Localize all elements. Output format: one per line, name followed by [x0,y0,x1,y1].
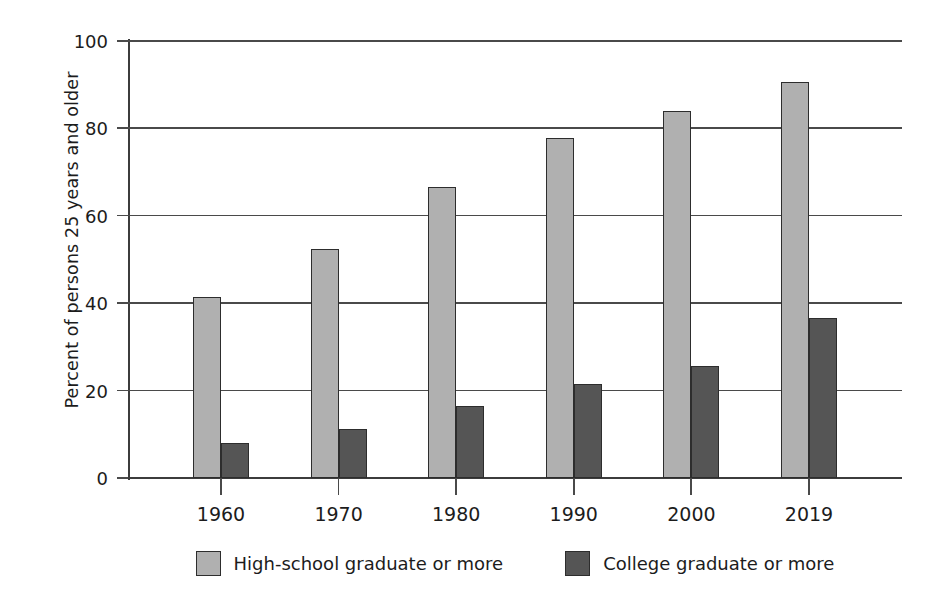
x-tick-1980 [455,478,457,495]
bar-1980-series-1 [428,187,456,478]
y-tick-label-100: 100 [48,31,108,52]
x-tick-label-2019: 2019 [749,503,869,525]
x-tick-1970 [338,478,340,495]
x-tick-1990 [573,478,575,495]
legend-item-2[interactable]: College graduate or more [565,551,834,576]
bar-2000-series-1 [663,111,691,478]
gridline-100 [128,40,902,42]
x-tick-label-2000: 2000 [631,503,751,525]
chart-page: Percent of persons 25 years and older 02… [0,0,945,609]
x-tick-label-1960: 1960 [161,503,281,525]
legend-label-1: High-school graduate or more [234,553,504,574]
legend-swatch-icon-1 [196,551,221,576]
bar-1990-series-1 [546,138,574,478]
y-tick-100 [117,40,128,42]
y-tick-40 [117,302,128,304]
y-tick-label-20: 20 [48,380,108,401]
y-tick-80 [117,127,128,129]
x-tick-2000 [690,478,692,495]
bar-1970-series-1 [311,249,339,478]
y-tick-label-40: 40 [48,293,108,314]
x-tick-label-1980: 1980 [396,503,516,525]
y-tick-0 [117,477,128,479]
y-tick-20 [117,390,128,392]
bar-2019-series-2 [809,318,837,478]
legend-swatch-icon-2 [565,551,590,576]
bar-1960-series-1 [193,297,221,478]
x-tick-label-1990: 1990 [514,503,634,525]
x-tick-1960 [220,478,222,495]
x-tick-2019 [808,478,810,495]
bar-1960-series-2 [221,443,249,478]
x-tick-label-1970: 1970 [279,503,399,525]
y-tick-label-80: 80 [48,118,108,139]
bar-2000-series-2 [691,366,719,478]
bar-1980-series-2 [456,406,484,478]
bar-1990-series-2 [574,384,602,478]
y-axis-spine [128,39,130,480]
bar-1970-series-2 [339,429,367,478]
bar-2019-series-1 [781,82,809,478]
y-axis-title: Percent of persons 25 years and older [52,0,92,480]
y-tick-60 [117,215,128,217]
plot-area: 020406080100196019701980199020002019 [128,41,902,478]
y-tick-label-60: 60 [48,205,108,226]
y-tick-label-0: 0 [48,468,108,489]
chart-legend: High-school graduate or moreCollege grad… [128,551,902,576]
legend-label-2: College graduate or more [603,553,834,574]
legend-item-1[interactable]: High-school graduate or more [196,551,504,576]
